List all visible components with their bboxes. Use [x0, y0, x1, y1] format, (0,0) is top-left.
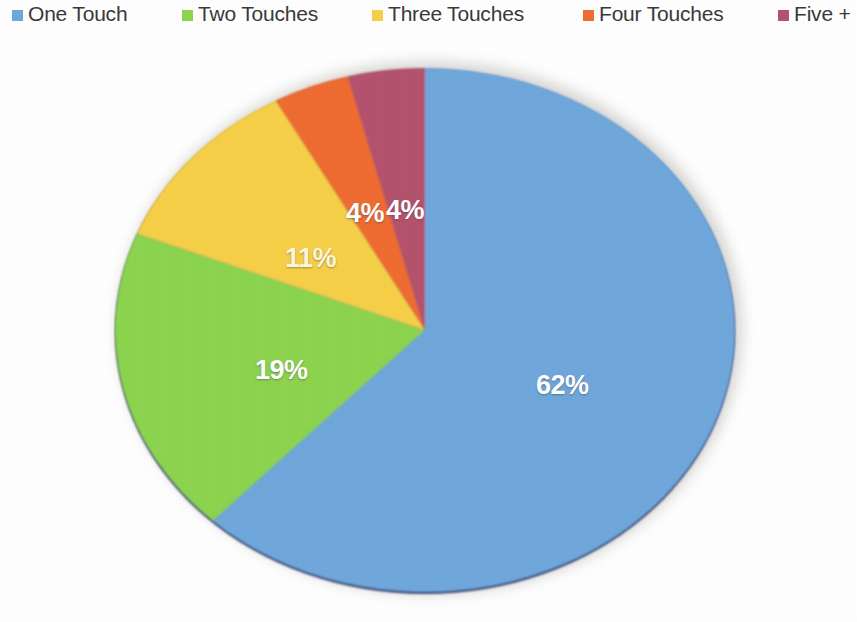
legend-label: One Touch	[28, 2, 127, 26]
legend-item-two-touches[interactable]: Two Touches	[182, 2, 318, 26]
legend-swatch-icon	[583, 10, 594, 21]
legend-item-five-plus[interactable]: Five +	[778, 2, 851, 26]
legend-item-three-touches[interactable]: Three Touches	[372, 2, 524, 26]
legend-label: Four Touches	[599, 2, 723, 26]
chart-legend: One Touch Two Touches Three Touches Four…	[0, 0, 857, 38]
legend-swatch-icon	[372, 10, 383, 21]
pie-chart: 62% 19% 11% 4% 4%	[0, 38, 857, 622]
legend-swatch-icon	[182, 10, 193, 21]
legend-label: Three Touches	[388, 2, 524, 26]
legend-label: Five +	[794, 2, 851, 26]
pie-slices	[115, 68, 735, 592]
legend-swatch-icon	[778, 10, 789, 21]
pie-chart-svg	[0, 38, 857, 622]
legend-label: Two Touches	[198, 2, 318, 26]
legend-item-one-touch[interactable]: One Touch	[12, 2, 127, 26]
legend-swatch-icon	[12, 10, 23, 21]
legend-item-four-touches[interactable]: Four Touches	[583, 2, 723, 26]
